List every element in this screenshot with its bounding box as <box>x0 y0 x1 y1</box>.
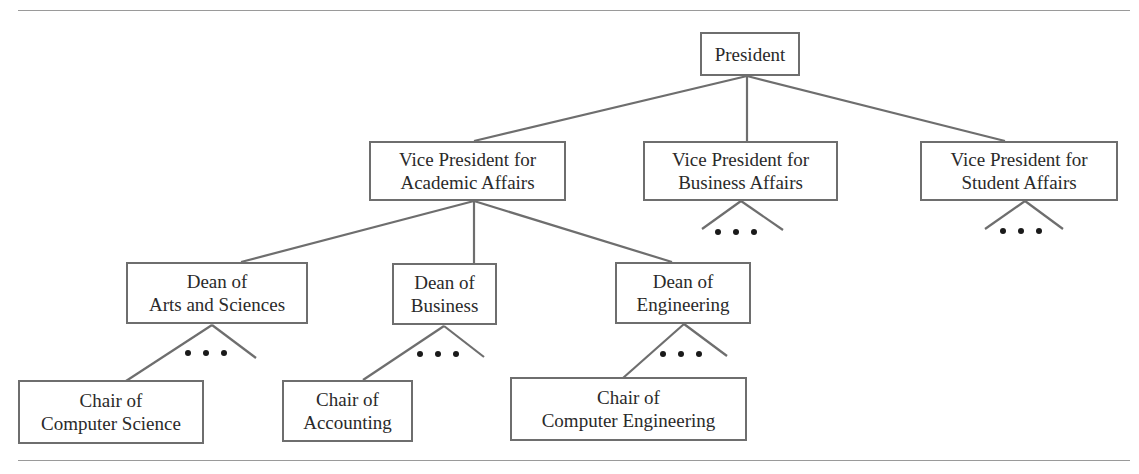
ellipsis-dean-business <box>417 351 459 357</box>
node-dean-business: Dean of Business <box>392 263 497 325</box>
node-label-line2: Computer Science <box>41 412 181 435</box>
node-label-line2: Computer Engineering <box>542 409 716 432</box>
node-president: President <box>700 32 800 76</box>
dot-icon <box>715 229 721 235</box>
node-label-line1: Vice President for <box>950 148 1087 171</box>
edge-president-vp-student <box>747 76 1005 141</box>
node-label-line1: Dean of <box>187 270 248 293</box>
edge-president-vp-academic <box>474 76 747 141</box>
branch-vp-business-left <box>702 201 741 229</box>
node-label-line2: Academic Affairs <box>400 171 534 194</box>
dot-icon <box>660 351 666 357</box>
ellipsis-vp-business <box>715 229 757 235</box>
dot-icon <box>185 350 191 356</box>
node-label-line1: Dean of <box>414 271 475 294</box>
dot-icon <box>203 350 209 356</box>
node-label-line1: Chair of <box>316 388 379 411</box>
node-chair-accounting: Chair of Accounting <box>282 380 413 442</box>
node-label-line1: Chair of <box>80 389 143 412</box>
node-label-line1: Dean of <box>653 270 714 293</box>
node-label-line2: Accounting <box>303 411 392 434</box>
branch-vp-student-right <box>1025 201 1063 229</box>
edge-vp-academic-dean-arts <box>241 201 474 262</box>
dot-icon <box>678 351 684 357</box>
dot-icon <box>453 351 459 357</box>
branch-vp-student-left <box>985 201 1025 229</box>
node-dean-engineering: Dean of Engineering <box>615 262 751 324</box>
node-chair-cs: Chair of Computer Science <box>18 380 204 444</box>
node-label-line1: Vice President for <box>399 148 536 171</box>
node-label: President <box>715 43 786 66</box>
node-label-line2: Arts and Sciences <box>149 293 285 316</box>
dot-icon <box>751 229 757 235</box>
node-chair-ce: Chair of Computer Engineering <box>510 377 747 441</box>
ellipsis-dean-engineering <box>660 351 702 357</box>
dot-icon <box>1036 228 1042 234</box>
node-label-line1: Vice President for <box>672 148 809 171</box>
branch-vp-business-right <box>741 201 783 230</box>
node-vp-academic: Vice President for Academic Affairs <box>369 141 566 201</box>
dot-icon <box>221 350 227 356</box>
edge-vp-academic-dean-engineering <box>474 201 672 262</box>
node-label-line2: Student Affairs <box>961 171 1076 194</box>
dot-icon <box>696 351 702 357</box>
dot-icon <box>435 351 441 357</box>
node-vp-student: Vice President for Student Affairs <box>920 141 1118 201</box>
dot-icon <box>1000 228 1006 234</box>
node-label-line2: Engineering <box>637 293 730 316</box>
node-label-line2: Business <box>411 294 479 317</box>
dot-icon <box>733 229 739 235</box>
ellipsis-dean-arts <box>185 350 227 356</box>
dot-icon <box>417 351 423 357</box>
node-label-line1: Chair of <box>597 386 660 409</box>
node-dean-arts: Dean of Arts and Sciences <box>126 262 308 324</box>
node-vp-business: Vice President for Business Affairs <box>643 141 838 201</box>
dot-icon <box>1018 228 1024 234</box>
node-label-line2: Business Affairs <box>678 171 803 194</box>
ellipsis-vp-student <box>1000 228 1042 234</box>
